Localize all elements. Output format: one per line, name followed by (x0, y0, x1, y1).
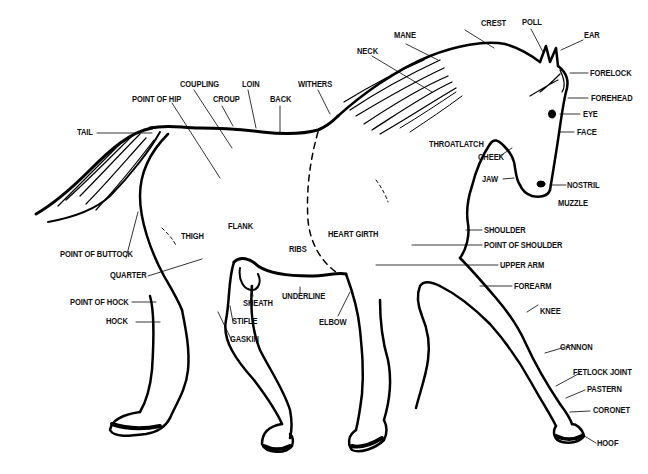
label-eye: EYE (583, 110, 598, 120)
label-croup: CROUP (213, 95, 240, 105)
label-fetlock-joint: FETLOCK JOINT (573, 368, 632, 378)
label-mane: MANE (394, 31, 416, 41)
label-ear: EAR (584, 31, 600, 41)
label-elbow: ELBOW (319, 318, 347, 328)
label-knee: KNEE (540, 307, 561, 317)
label-loin: LOIN (242, 80, 260, 90)
label-heart-girth: HEART GIRTH (328, 230, 378, 240)
label-point-of-hip: POINT OF HIP (132, 95, 181, 105)
label-forelock: FORELOCK (590, 69, 632, 79)
label-ribs: RIBS (289, 245, 307, 255)
label-back: BACK (270, 95, 291, 105)
label-pastern: PASTERN (587, 385, 622, 395)
label-gaskin: GASKIN (230, 335, 259, 345)
label-shoulder: SHOULDER (484, 226, 526, 236)
label-cannon: CANNON (560, 343, 593, 353)
label-face: FACE (577, 128, 597, 138)
label-forehead: FOREHEAD (591, 94, 633, 104)
horse-anatomy-diagram: CREST POLL MANE EAR NECK FORELOCK COUPLI… (0, 0, 648, 474)
label-stifle: STIFLE (232, 317, 257, 327)
label-crest: CREST (481, 19, 506, 29)
label-coupling: COUPLING (180, 80, 219, 90)
label-withers: WITHERS (298, 80, 332, 90)
label-thigh: THIGH (181, 232, 204, 242)
label-upper-arm: UPPER ARM (500, 261, 544, 271)
label-coronet: CORONET (593, 406, 630, 416)
label-point-of-buttock: POINT OF BUTTOCK (60, 250, 133, 260)
label-muzzle: MUZZLE (558, 199, 588, 209)
label-neck: NECK (357, 47, 378, 57)
label-point-of-shoulder: POINT OF SHOULDER (484, 241, 562, 251)
label-quarter: QUARTER (110, 271, 147, 281)
label-nostril: NOSTRIL (567, 181, 599, 191)
label-flank: FLANK (228, 222, 253, 232)
label-tail: TAIL (77, 128, 93, 138)
label-poll: POLL (522, 18, 542, 28)
label-throatlatch: THROATLATCH (429, 140, 484, 150)
label-underline: UNDERLINE (282, 292, 325, 302)
horse-illustration (0, 0, 648, 474)
label-point-of-hock: POINT OF HOCK (70, 298, 129, 308)
label-hoof: HOOF (597, 439, 618, 449)
label-cheek: CHEEK (478, 153, 504, 163)
label-forearm: FOREARM (514, 282, 551, 292)
label-sheath: SHEATH (243, 299, 273, 309)
label-jaw: JAW (482, 175, 498, 185)
label-hock: HOCK (106, 317, 128, 327)
